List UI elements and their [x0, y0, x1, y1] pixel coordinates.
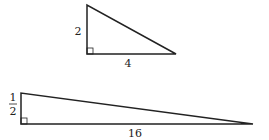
- horizontal-leg-label: 16: [128, 127, 142, 140]
- right-angle-marker: [21, 118, 27, 124]
- diagram-canvas: 2 4 1 2 16: [0, 0, 269, 140]
- triangle-long: 1 2 16: [9, 91, 253, 140]
- triangle-small: 2 4: [75, 5, 177, 70]
- triangle-small-outline: [87, 5, 176, 54]
- fraction-denominator: 2: [10, 105, 17, 118]
- fraction-numerator: 1: [10, 91, 17, 104]
- vertical-leg-label: 2: [75, 25, 82, 38]
- right-angle-marker: [87, 48, 93, 54]
- horizontal-leg-label: 4: [125, 57, 132, 70]
- triangle-long-outline: [21, 93, 253, 124]
